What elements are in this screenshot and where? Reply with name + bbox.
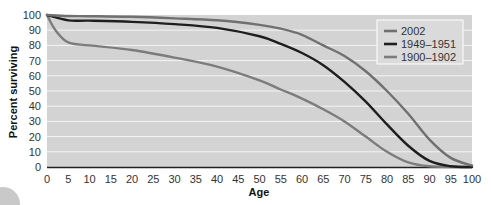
- x-tick-label: 60: [296, 173, 308, 185]
- x-tick-label: 5: [65, 173, 71, 185]
- y-tick-label: 20: [29, 131, 41, 143]
- y-axis-label: Percent surviving: [7, 46, 19, 138]
- y-tick-label: 10: [29, 146, 41, 158]
- x-tick-label: 20: [126, 173, 138, 185]
- y-tick-label: 0: [35, 161, 41, 173]
- x-tick-label: 25: [147, 173, 159, 185]
- y-tick-label: 100: [23, 9, 41, 21]
- x-tick-label: 50: [253, 173, 265, 185]
- survival-chart: 0102030405060708090100 05101520253035404…: [0, 0, 491, 205]
- y-tick-label: 60: [29, 70, 41, 82]
- y-tick-label: 80: [29, 39, 41, 51]
- x-tick-label: 90: [423, 173, 435, 185]
- legend-label: 1900–1902: [401, 51, 456, 63]
- x-tick-label: 10: [83, 173, 95, 185]
- x-tick-label: 95: [445, 173, 457, 185]
- x-tick-label: 100: [463, 173, 481, 185]
- legend: 20021949–19511900–1902: [377, 20, 463, 64]
- x-tick-label: 75: [360, 173, 372, 185]
- y-tick-label: 70: [29, 55, 41, 67]
- y-tick-label: 90: [29, 24, 41, 36]
- y-axis-ticks: 0102030405060708090100: [23, 9, 41, 173]
- y-tick-label: 50: [29, 85, 41, 97]
- x-tick-label: 45: [232, 173, 244, 185]
- x-tick-label: 35: [190, 173, 202, 185]
- x-tick-label: 65: [317, 173, 329, 185]
- legend-label: 1949–1951: [401, 38, 456, 50]
- x-tick-label: 15: [105, 173, 117, 185]
- legend-label: 2002: [401, 25, 425, 37]
- x-tick-label: 80: [381, 173, 393, 185]
- y-tick-label: 40: [29, 100, 41, 112]
- x-tick-label: 30: [168, 173, 180, 185]
- x-tick-label: 55: [275, 173, 287, 185]
- y-tick-label: 30: [29, 115, 41, 127]
- x-tick-label: 70: [338, 173, 350, 185]
- x-axis-ticks: 0510152025303540455055606570758085909510…: [44, 173, 481, 185]
- x-axis-label: Age: [249, 186, 270, 198]
- x-tick-label: 40: [211, 173, 223, 185]
- x-tick-label: 0: [44, 173, 50, 185]
- x-tick-label: 85: [402, 173, 414, 185]
